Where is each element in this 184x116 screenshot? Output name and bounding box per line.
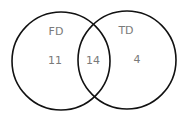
- td-only-count: 4: [134, 54, 141, 66]
- fd-only-count: 11: [48, 55, 62, 67]
- intersection-count: 14: [86, 55, 100, 67]
- set-label-fd: FD: [49, 26, 64, 38]
- set-label-td: TD: [118, 25, 133, 37]
